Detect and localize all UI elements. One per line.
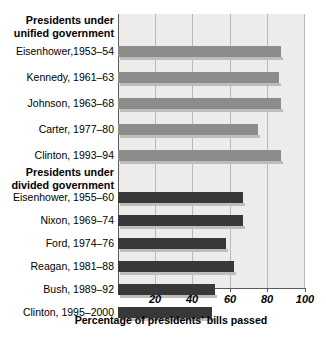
- bar-shadow: [120, 109, 283, 112]
- category-label-unified-1: Kennedy, 1961–63: [2, 72, 114, 83]
- bar-shadow: [120, 161, 283, 164]
- bar-shadow: [120, 135, 260, 138]
- group-heading-unified-line1: Presidents under: [0, 14, 114, 27]
- x-tick-60: [230, 288, 231, 292]
- bar-unified-4: [118, 150, 281, 161]
- category-label-unified-0: Eisenhower,1953–54: [2, 46, 114, 57]
- bar-shadow: [120, 83, 281, 86]
- bar-unified-2: [118, 98, 281, 109]
- bar-divided-0: [118, 192, 243, 203]
- x-tick-80: [267, 288, 268, 292]
- x-tick-label-20: 20: [140, 293, 170, 306]
- bar-shadow: [120, 57, 283, 60]
- bar-chart: Presidents under unified government Eise…: [0, 0, 326, 339]
- category-label-divided-4: Bush, 1989–92: [2, 284, 114, 295]
- x-tick-label-60: 60: [215, 293, 245, 306]
- bar-shadow: [120, 249, 228, 252]
- category-label-divided-2: Ford, 1974–76: [2, 238, 114, 249]
- x-axis-title-wrap: Percentage of presidents' bills passed: [0, 314, 326, 326]
- group-heading-divided-line2: divided government: [0, 179, 114, 192]
- category-label-unified-3: Carter, 1977–80: [2, 124, 114, 135]
- bar-divided-1: [118, 215, 243, 226]
- bar-unified-0: [118, 46, 281, 57]
- x-tick-label-100: 100: [290, 293, 320, 306]
- bar-divided-2: [118, 238, 226, 249]
- bar-unified-3: [118, 124, 258, 135]
- x-axis-title: Percentage of presidents' bills passed: [59, 314, 268, 326]
- x-tick-label-80: 80: [252, 293, 282, 306]
- category-label-divided-3: Reagan, 1981–88: [2, 261, 114, 272]
- x-tick-label-40: 40: [177, 293, 207, 306]
- x-tick-100: [305, 288, 306, 292]
- gridline-100: [304, 14, 305, 288]
- category-label-unified-2: Johnson, 1963–68: [2, 98, 114, 109]
- bar-shadow: [120, 226, 245, 229]
- category-label-unified-4: Clinton, 1993–94: [2, 150, 114, 161]
- category-label-divided-1: Nixon, 1969–74: [2, 215, 114, 226]
- bar-unified-1: [118, 72, 279, 83]
- bar-shadow: [120, 203, 245, 206]
- group-heading-divided-line1: Presidents under: [0, 166, 114, 179]
- bar-divided-3: [118, 261, 234, 272]
- bar-shadow: [120, 272, 236, 275]
- category-labels: Presidents under unified government Eise…: [0, 0, 114, 300]
- category-label-divided-0: Eisenhower, 1955–60: [2, 192, 114, 203]
- group-heading-unified-line2: unified government: [0, 27, 114, 40]
